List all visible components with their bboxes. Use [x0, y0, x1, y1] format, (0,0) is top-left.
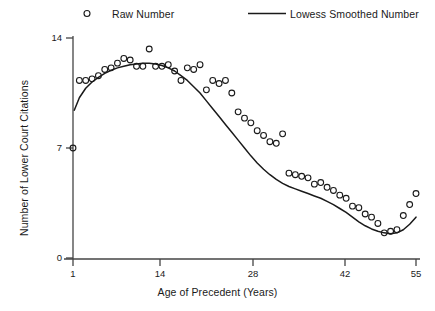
raw-number-point — [267, 139, 273, 145]
raw-number-point — [140, 63, 146, 69]
raw-number-point — [305, 175, 311, 181]
raw-number-point — [350, 203, 356, 209]
raw-number-point — [375, 221, 381, 227]
raw-number-point — [407, 202, 413, 208]
raw-number-point — [216, 81, 222, 87]
raw-number-point — [242, 115, 248, 121]
raw-number-point — [235, 109, 241, 115]
raw-number-point — [127, 57, 133, 63]
raw-number-point — [184, 65, 190, 71]
raw-number-point — [261, 133, 267, 139]
raw-number-point — [394, 227, 400, 233]
raw-number-point — [356, 205, 362, 211]
raw-number-point — [331, 188, 337, 194]
raw-number-points — [70, 46, 419, 236]
raw-number-point — [292, 172, 298, 178]
raw-number-point — [83, 78, 89, 84]
raw-number-point — [89, 76, 95, 82]
citation-decay-chart: Raw Number Lowess Smoothed Number 14 7 0… — [0, 0, 435, 311]
raw-number-point — [146, 46, 152, 52]
chart-plot-area — [0, 0, 435, 311]
raw-number-point — [165, 62, 171, 68]
y-axis-title: Number of Lower Court Citations — [18, 48, 30, 268]
raw-number-point — [286, 170, 292, 176]
y-tick-label-14: 14 — [38, 32, 62, 43]
raw-number-point — [178, 78, 184, 84]
raw-number-point — [280, 131, 286, 137]
y-tick-label-0: 0 — [38, 252, 62, 263]
raw-number-point — [115, 60, 121, 66]
raw-number-point — [400, 213, 406, 219]
raw-number-point — [337, 192, 343, 198]
raw-number-point — [191, 67, 197, 73]
x-tick-label-42: 42 — [335, 268, 355, 279]
raw-number-point — [273, 140, 279, 146]
raw-number-point — [343, 195, 349, 201]
x-tick-label-28: 28 — [243, 268, 263, 279]
x-axis-ticks — [73, 259, 416, 266]
legend-label-raw-number: Raw Number — [112, 8, 174, 20]
raw-number-point — [248, 120, 254, 126]
raw-number-point — [318, 180, 324, 186]
raw-number-point — [197, 62, 203, 68]
raw-number-point — [210, 78, 216, 84]
raw-number-point — [369, 214, 375, 220]
raw-number-point — [311, 181, 317, 187]
raw-number-point — [413, 191, 419, 197]
raw-number-point — [229, 90, 235, 96]
raw-number-point — [76, 78, 82, 84]
x-tick-label-1: 1 — [63, 268, 83, 279]
lowess-smoothed-line — [74, 63, 416, 234]
x-tick-label-55: 55 — [406, 268, 426, 279]
raw-number-point — [203, 87, 209, 93]
y-tick-label-7: 7 — [38, 142, 62, 153]
x-tick-label-14: 14 — [150, 268, 170, 279]
y-axis-ticks — [66, 38, 73, 258]
x-axis-title: Age of Precedent (Years) — [0, 286, 435, 298]
raw-number-point — [324, 184, 330, 190]
raw-number-point — [254, 128, 260, 134]
raw-number-point — [102, 67, 108, 73]
chart-axes — [64, 36, 420, 266]
raw-number-point — [223, 78, 229, 84]
raw-number-point — [121, 56, 127, 62]
raw-number-point — [299, 173, 305, 179]
raw-number-point — [362, 211, 368, 217]
legend-label-lowess-smoothed-number: Lowess Smoothed Number — [290, 8, 419, 20]
legend-raw-circle-icon — [84, 11, 90, 17]
